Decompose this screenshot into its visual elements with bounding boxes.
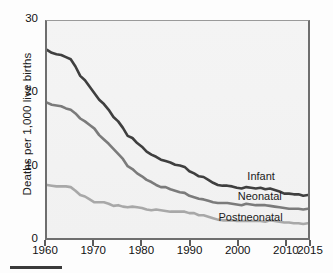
series-label-infant: Infant bbox=[247, 170, 275, 182]
x-tick-mark bbox=[92, 240, 94, 246]
footer-rule bbox=[10, 266, 62, 269]
y-tick-label: 0 bbox=[12, 232, 38, 244]
y-tick-label: 20 bbox=[12, 85, 38, 97]
x-tick-mark bbox=[237, 240, 239, 246]
series-lines bbox=[47, 21, 308, 238]
x-tick-mark bbox=[285, 240, 287, 246]
y-axis-label: Deaths per 1,000 live births bbox=[21, 19, 33, 229]
y-tick-label: 10 bbox=[12, 159, 38, 171]
series-label-neonatal: Neonatal bbox=[238, 190, 282, 202]
infant-mortality-chart: Deaths per 1,000 live births 0102030 Inf… bbox=[0, 0, 333, 273]
x-tick-mark bbox=[189, 240, 191, 246]
plot-area bbox=[45, 20, 310, 240]
x-tick-mark bbox=[44, 240, 46, 246]
x-tick-mark bbox=[309, 240, 311, 246]
y-tick-label: 30 bbox=[12, 12, 38, 24]
series-label-postneonatal: Postneonatal bbox=[218, 211, 282, 223]
x-tick-mark bbox=[140, 240, 142, 246]
